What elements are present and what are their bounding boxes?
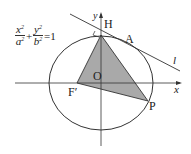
origin-label: O <box>93 70 102 82</box>
triangle-hfp <box>77 35 148 101</box>
y-axis-label: y <box>93 11 97 21</box>
point-f-prime-label: F′ <box>68 86 77 98</box>
point-h-label: H <box>104 18 113 30</box>
y-axis-arrow-icon <box>99 12 103 18</box>
ellipse-equation: x2a2 + y2b2 =1 <box>14 24 56 47</box>
x-axis-label: x <box>174 84 179 95</box>
point-p-label: P <box>149 100 156 112</box>
point-a-label: A <box>125 33 134 45</box>
line-l-label: l <box>173 55 176 66</box>
